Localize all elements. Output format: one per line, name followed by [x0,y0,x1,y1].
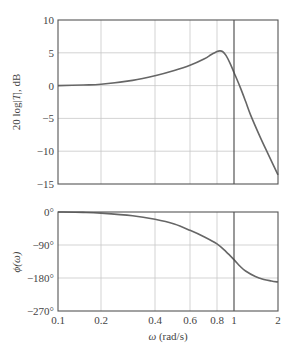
x-tick-label: 0.6 [183,314,197,326]
phase-grid [58,212,278,311]
magnitude-y-axis-label: 20 log|T|, dB [10,74,22,131]
phase-y-axis-label: ϕ(ω) [10,251,23,272]
y-tick-label: 10 [43,14,55,26]
y-tick-label: −90° [32,239,54,251]
y-tick-label: 0 [49,80,55,92]
x-tick-label: 0.2 [94,314,108,326]
x-tick-label: 0.1 [51,314,65,326]
ylabel-part-1: 20 log| [10,100,22,130]
magnitude-curve [58,51,278,175]
phase-plot-frame [58,212,278,311]
magnitude-y-ticks: 1050−5−10−15 [37,14,55,190]
phase-y-ticks: 0°−90°−180°−270° [27,206,54,317]
x-axis-label-units: (rad/s) [156,330,188,343]
phase-curve [58,212,278,282]
y-tick-label: 5 [49,47,55,59]
x-axis-label: ω (rad/s) [148,330,188,343]
y-tick-label: −5 [42,112,54,124]
y-tick-label: −270° [27,305,54,317]
y-tick-label: −15 [37,178,55,190]
x-tick-label: 2 [275,314,281,326]
y-tick-label: −180° [27,272,54,284]
ylabel-part-3: |, dB [10,74,22,95]
y-tick-label: 0° [44,206,54,218]
x-tick-label: 0.4 [148,314,162,326]
phase-panel: 0°−90°−180°−270° 0.10.20.40.60.812 ϕ(ω) … [10,206,281,343]
bode-plot: 1050−5−10−15 20 log|T|, dB 0°−90°−180°−2… [0,0,293,351]
x-ticks: 0.10.20.40.60.812 [51,314,281,326]
x-tick-label: 1 [231,314,237,326]
y-tick-label: −10 [37,145,55,157]
x-tick-label: 0.8 [210,314,224,326]
magnitude-panel: 1050−5−10−15 20 log|T|, dB [10,14,278,190]
